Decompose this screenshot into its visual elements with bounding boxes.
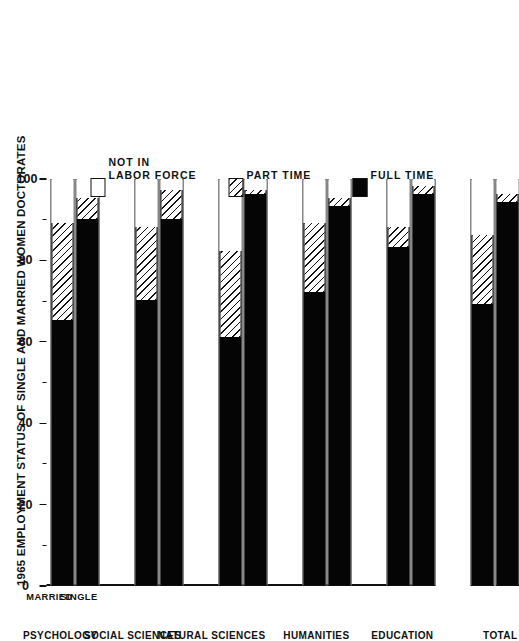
segment-not-in-labor-force (471, 178, 493, 235)
category-label-education: EDUCATION (371, 630, 433, 641)
bar-married[interactable] (470, 179, 494, 586)
segment-part-time (496, 194, 518, 202)
legend-swatch-part-time (228, 178, 243, 197)
legend-label-line-1: NOT IN (108, 156, 196, 169)
legend-swatch-not-in-labor-force (90, 178, 105, 197)
segment-part-time (471, 235, 493, 304)
segment-full-time (471, 304, 493, 585)
segment-not-in-labor-force (496, 178, 518, 194)
category-label-natural-sciences: NATURAL SCIENCES (157, 630, 265, 641)
legend-label-line-2: LABOR FORCE (108, 169, 196, 182)
legend-label-not-in-labor-force: NOT INLABOR FORCE (108, 156, 196, 181)
bar-single[interactable] (495, 179, 519, 586)
legend-swatch-full-time (352, 178, 367, 197)
category-label-humanities: HUMANITIES (283, 630, 349, 641)
chart-legend: FULL TIMEPART TIMENOT INLABOR FORCE (0, 0, 471, 586)
segment-full-time (496, 202, 518, 585)
legend-label-part-time: PART TIME (246, 169, 311, 181)
bar-sublabel-single: SINGLE (60, 592, 97, 602)
category-label-total: TOTAL (483, 630, 517, 641)
legend-label-full-time: FULL TIME (370, 169, 434, 181)
